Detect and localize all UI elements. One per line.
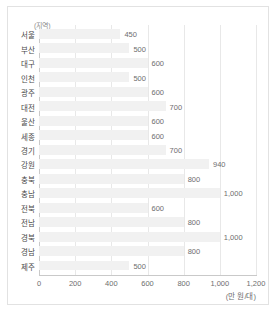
x-axis-tick-label: 200 [69, 279, 82, 288]
x-axis-tick-label: 400 [105, 279, 118, 288]
bar-value-label: 600 [152, 203, 165, 212]
bar-row: 서울450 [39, 27, 256, 41]
x-axis-tick-label: 1,000 [210, 279, 229, 288]
bar-value-label: 500 [133, 44, 146, 53]
category-label: 울산 [21, 116, 35, 127]
bar [39, 130, 148, 140]
bar-row: 대전700 [39, 99, 256, 113]
bar-row: 경남800 [39, 244, 256, 258]
bar-row: 인천500 [39, 70, 256, 84]
category-label: 대전 [21, 101, 35, 112]
bar [39, 232, 220, 242]
category-label: 인천 [21, 72, 35, 83]
category-label: 경북 [21, 231, 35, 242]
bar [39, 116, 148, 126]
category-label: 대구 [21, 58, 35, 69]
bar-value-label: 1,000 [224, 232, 243, 241]
bar-row: 제주500 [39, 259, 256, 273]
bar [39, 188, 220, 198]
bar-value-label: 500 [133, 73, 146, 82]
bar-row: 충북800 [39, 172, 256, 186]
x-axis-tick-label: 800 [177, 279, 190, 288]
bar [39, 174, 184, 184]
bar [39, 72, 129, 82]
category-label: 서울 [21, 29, 35, 40]
category-label: 광주 [21, 87, 35, 98]
bar-row: 경기700 [39, 143, 256, 157]
bar-row: 대구600 [39, 56, 256, 70]
category-label: 경남 [21, 246, 35, 257]
bar [39, 101, 166, 111]
bar-value-label: 700 [170, 145, 183, 154]
x-axis-tick-label: 600 [141, 279, 154, 288]
category-label: 충남 [21, 188, 35, 199]
bar-row: 울산600 [39, 114, 256, 128]
bar-row: 전남800 [39, 215, 256, 229]
bar-value-label: 450 [124, 30, 137, 39]
bar [39, 145, 166, 155]
bar [39, 29, 120, 39]
bar-row: 전북600 [39, 201, 256, 215]
gridline [256, 25, 257, 275]
bar-row: 경북1,000 [39, 230, 256, 244]
bar-value-label: 500 [133, 261, 146, 270]
x-axis-tick-label: 1,200 [247, 279, 266, 288]
category-label: 충북 [21, 173, 35, 184]
category-label: 세종 [21, 130, 35, 141]
bar-value-label: 800 [188, 247, 201, 256]
x-axis-unit-label: (만 원/대) [226, 290, 256, 301]
bar [39, 246, 184, 256]
bar-row: 강원940 [39, 157, 256, 171]
category-label: 경기 [21, 144, 35, 155]
plot-area: 서울450부산500대구600인천500광주600대전700울산600세종600… [39, 27, 256, 273]
category-label: 제주 [21, 260, 35, 271]
bar-value-label: 1,000 [224, 189, 243, 198]
bar [39, 261, 129, 271]
bar-value-label: 600 [152, 88, 165, 97]
bar [39, 58, 148, 68]
bar-row: 광주600 [39, 85, 256, 99]
bar-value-label: 800 [188, 174, 201, 183]
category-label: 부산 [21, 43, 35, 54]
bar [39, 203, 148, 213]
bar-value-label: 600 [152, 59, 165, 68]
bar-row: 부산500 [39, 41, 256, 55]
bar-row: 세종600 [39, 128, 256, 142]
bar-value-label: 600 [152, 131, 165, 140]
bar [39, 159, 209, 169]
bar [39, 217, 184, 227]
bar [39, 87, 148, 97]
category-label: 전북 [21, 202, 35, 213]
chart-frame: (지역) 서울450부산500대구600인천500광주600대전700울산600… [7, 6, 269, 305]
bar-row: 충남1,000 [39, 186, 256, 200]
category-label: 강원 [21, 159, 35, 170]
x-axis-line [39, 275, 257, 276]
bar-value-label: 940 [213, 160, 226, 169]
x-axis-tick-label: 0 [37, 279, 41, 288]
bar-value-label: 600 [152, 117, 165, 126]
bar [39, 43, 129, 53]
category-label: 전남 [21, 217, 35, 228]
bar-value-label: 700 [170, 102, 183, 111]
bar-value-label: 800 [188, 218, 201, 227]
